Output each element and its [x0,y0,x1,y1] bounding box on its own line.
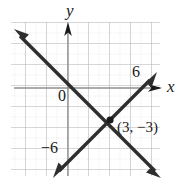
intersection-point-label: (3, −3) [117,120,158,135]
graph-canvas [0,0,180,188]
intersection-point-dot [106,116,113,123]
y-tick-label-negative-6: −6 [41,140,58,156]
intersection-marker-layer [106,116,113,123]
coordinate-plane-figure: y x 0 6 −6 (3, −3) [0,0,180,188]
y-axis-label: y [66,2,74,19]
origin-label: 0 [58,88,66,104]
x-axis-label: x [167,78,175,95]
x-tick-label-6: 6 [132,64,140,80]
